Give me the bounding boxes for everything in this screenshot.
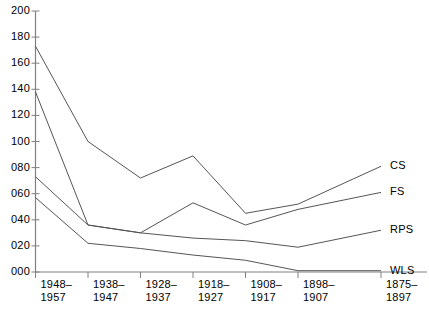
y-axis-tick-label: 000 xyxy=(2,266,30,277)
x-axis-tick-label: 1875– 1897 xyxy=(386,278,418,304)
x-axis-tick-label: 1938– 1947 xyxy=(93,278,125,304)
y-axis-tick-label: 020 xyxy=(2,240,30,251)
y-axis-tick-label: 160 xyxy=(2,57,30,68)
y-axis-tick-label: 200 xyxy=(2,5,30,16)
y-axis-tick-label: 080 xyxy=(2,162,30,173)
x-axis-tick-label: 1908– 1917 xyxy=(251,278,283,304)
y-axis-tick-label: 100 xyxy=(2,136,30,147)
series-label-cs: CS xyxy=(390,160,406,171)
y-axis-tick-label: 040 xyxy=(2,214,30,225)
y-axis-tick-label: 120 xyxy=(2,109,30,120)
x-axis-tick-label: 1898– 1907 xyxy=(303,278,335,304)
y-axis-tick-label: 180 xyxy=(2,31,30,42)
series-line-cs xyxy=(36,46,382,213)
x-axis-tick-label: 1948– 1957 xyxy=(41,278,73,304)
line-chart: 0000200400600801001201401601802001948– 1… xyxy=(0,0,429,310)
series-label-fs: FS xyxy=(390,186,404,197)
x-axis-tick-label: 1928– 1937 xyxy=(146,278,178,304)
series-line-rps xyxy=(36,177,382,247)
series-label-rps: RPS xyxy=(390,224,413,235)
series-line-wls xyxy=(36,198,382,271)
x-axis-tick-label: 1918– 1927 xyxy=(198,278,230,304)
y-axis-tick-label: 140 xyxy=(2,83,30,94)
series-line-fs xyxy=(36,92,382,233)
y-axis-tick-label: 060 xyxy=(2,188,30,199)
chart-canvas xyxy=(0,0,429,310)
series-label-wls: WLS xyxy=(390,265,414,276)
